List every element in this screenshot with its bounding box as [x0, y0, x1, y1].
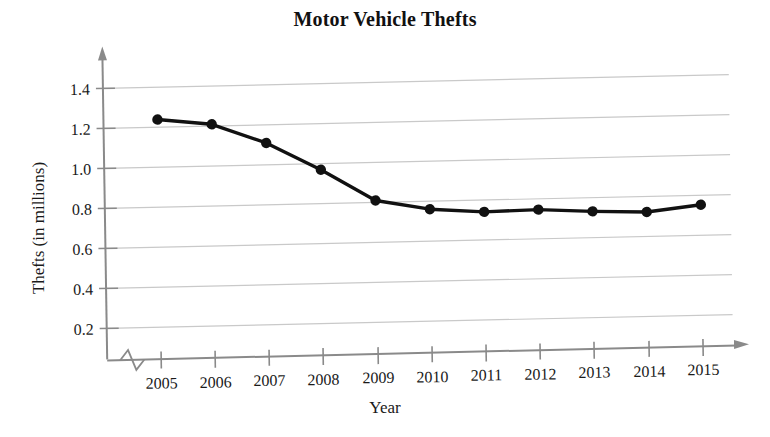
x-tick-label: 2008 — [307, 371, 339, 389]
y-tick-label: 0.4 — [73, 281, 93, 298]
x-tick-label: 2009 — [362, 369, 394, 387]
x-tick-labels: 2005 2006 2007 2008 2009 2010 2011 2012 … — [145, 361, 719, 392]
x-tick-label: 2015 — [687, 361, 719, 379]
x-tick-label: 2007 — [253, 372, 285, 390]
data-point-2013 — [587, 206, 598, 217]
chart-page: Motor Vehicle Thefts — [0, 0, 770, 437]
data-point-2005 — [152, 114, 163, 125]
x-tick-label: 2011 — [471, 366, 503, 383]
x-tick-label: 2012 — [524, 365, 556, 383]
x-tick-label: 2006 — [199, 373, 231, 391]
data-point-2011 — [479, 207, 490, 218]
y-tick-label: 1.4 — [70, 81, 90, 98]
x-tick-label: 2005 — [145, 374, 177, 392]
y-tick-label: 1.2 — [70, 121, 90, 138]
y-tick-label: 0.2 — [74, 321, 94, 338]
data-point-2010 — [425, 204, 436, 215]
y-axis-title: Thefts (in millions) — [29, 128, 49, 328]
y-tick-label: 0.6 — [72, 241, 92, 258]
y-tick-label: 0.8 — [72, 201, 92, 218]
x-tick-label: 2013 — [578, 363, 610, 381]
data-point-2015 — [696, 199, 707, 210]
x-tick-label: 2010 — [416, 368, 448, 386]
y-tick-label: 1.0 — [71, 161, 91, 178]
gridlines — [103, 75, 733, 329]
y-tick-labels: 1.4 1.2 1.0 0.8 0.6 0.4 0.2 — [70, 81, 94, 338]
x-tick-label: 2014 — [633, 363, 665, 381]
y-axis — [95, 46, 119, 359]
data-point-2012 — [533, 204, 544, 215]
x-axis-title: Year — [335, 398, 435, 418]
data-point-2014 — [641, 207, 652, 218]
line-chart-plot: 1.4 1.2 1.0 0.8 0.6 0.4 0.2 2005 2006 20… — [0, 0, 770, 437]
data-point-2006 — [206, 119, 217, 130]
